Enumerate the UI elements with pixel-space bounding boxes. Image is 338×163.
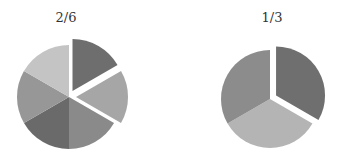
pie-chart-right: 1/3 (221, 10, 325, 148)
chart-title-right: 1/3 (262, 10, 283, 25)
pie-slices-left (17, 39, 128, 149)
pie-slices-right (221, 47, 325, 148)
pie-charts: 2/6 1/3 (0, 0, 338, 163)
pie-chart-left: 2/6 (17, 10, 128, 149)
chart-title-left: 2/6 (56, 10, 77, 25)
